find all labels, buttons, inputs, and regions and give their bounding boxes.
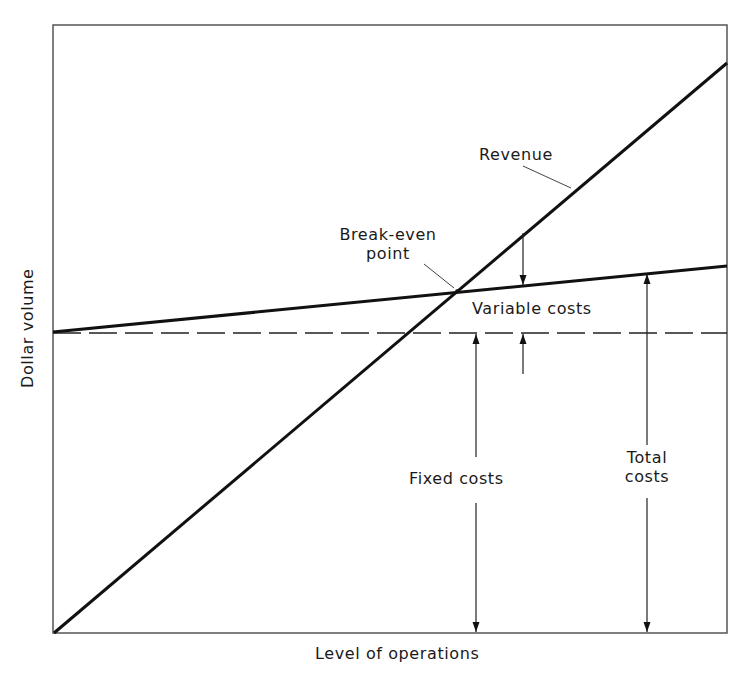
total-costs-label-line1: Total xyxy=(612,448,682,467)
revenue-leader-line xyxy=(523,166,571,188)
break-even-label: Break-even point xyxy=(332,225,444,263)
revenue-line xyxy=(54,63,727,633)
plot-frame xyxy=(53,25,727,633)
revenue-label: Revenue xyxy=(479,145,553,164)
break-even-label-line2: point xyxy=(332,244,444,263)
break-even-label-line1: Break-even xyxy=(332,225,444,244)
break-even-leader-line xyxy=(424,264,454,288)
total-costs-label: Total costs xyxy=(612,448,682,486)
x-axis-label: Level of operations xyxy=(315,644,479,663)
break-even-chart xyxy=(0,0,754,678)
total-costs-line xyxy=(53,266,727,332)
total-costs-label-line2: costs xyxy=(612,467,682,486)
variable-costs-label: Variable costs xyxy=(472,299,592,318)
break-even-point xyxy=(455,289,459,293)
fixed-costs-label: Fixed costs xyxy=(409,469,504,488)
y-axis-label: Dollar volume xyxy=(18,268,37,388)
